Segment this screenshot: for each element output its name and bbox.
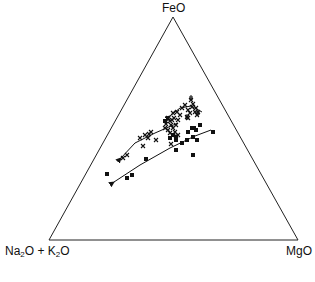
square-marker <box>211 130 215 134</box>
cross-marker <box>154 138 158 142</box>
square-marker <box>186 130 190 134</box>
square-marker <box>174 148 178 152</box>
cross-marker <box>176 118 180 122</box>
square-marker <box>185 138 189 142</box>
label-part: O <box>60 244 69 258</box>
cross-marker <box>141 144 145 148</box>
vertex-label-alkali: Na2O + K2O <box>5 244 70 259</box>
square-marker <box>125 176 129 180</box>
square-marker <box>168 136 172 140</box>
square-marker <box>191 135 195 139</box>
vertex-label-mgo: MgO <box>286 244 312 258</box>
cross-marker <box>125 153 129 157</box>
data-points <box>105 95 215 180</box>
vertex-label-feo: FeO <box>162 1 185 15</box>
square-marker <box>180 141 184 145</box>
trend-lines <box>114 106 211 182</box>
cross-marker <box>183 103 187 107</box>
square-marker <box>130 173 134 177</box>
cross-marker <box>169 142 173 146</box>
square-marker <box>195 138 199 142</box>
cross-marker <box>149 130 153 134</box>
cross-marker <box>172 116 176 120</box>
square-marker <box>144 157 148 161</box>
label-part: O + K <box>25 244 56 258</box>
square-marker <box>191 153 195 157</box>
square-marker <box>198 123 202 127</box>
cross-marker <box>138 136 142 140</box>
label-part: Na <box>5 244 20 258</box>
square-marker <box>163 119 167 123</box>
square-marker <box>105 172 109 176</box>
ternary-plot <box>0 0 315 282</box>
square-marker <box>194 128 198 132</box>
